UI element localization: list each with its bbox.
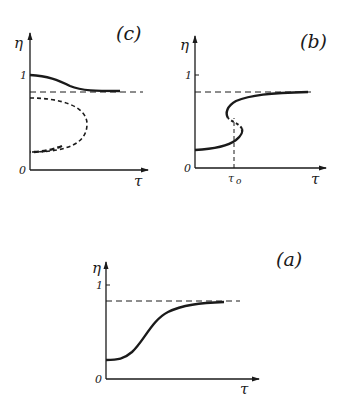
tau0-label: τ o [228,172,242,186]
x-axis-label-a: τ [240,380,249,398]
unstable-branch-c [30,98,87,152]
panel-c: (c) η τ 0 1 [14,22,148,190]
lower-branch-b [195,129,242,150]
origin-label-c: 0 [19,164,26,177]
stable-branch-c [30,75,120,91]
upper-branch-b [227,92,308,118]
y-tick-1-b: 1 [185,69,192,82]
panel-a: (a) η τ 0 1 [92,248,302,398]
x-axis-label-c: τ [134,172,143,190]
panel-label-b: (b) [300,30,327,52]
y-tick-1-c: 1 [20,69,27,82]
y-axis-label-b: η [180,36,189,54]
x-axis-label-b: τ [311,170,320,188]
panel-label-a: (a) [276,248,302,270]
tau0-symbol: τ [228,172,235,185]
y-axis-label-c: η [14,34,23,52]
lower-branch-c [30,146,62,152]
figure-canvas: (c) η τ 0 1 (b) η τ 0 1 τ o [0,0,345,404]
y-axis-label-a: η [92,259,101,277]
sigmoid-curve-a [106,302,224,360]
origin-label-b: 0 [184,162,191,175]
tau0-subscript: o [236,176,242,186]
origin-label-a: 0 [95,373,102,386]
panel-label-c: (c) [116,22,141,44]
y-tick-1-a: 1 [96,279,103,292]
panel-b: (b) η τ 0 1 τ o [180,30,327,188]
unstable-branch-b [228,118,242,129]
